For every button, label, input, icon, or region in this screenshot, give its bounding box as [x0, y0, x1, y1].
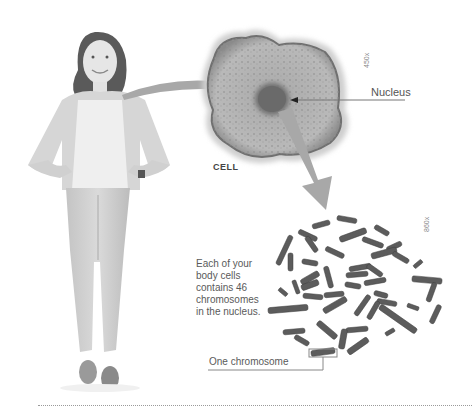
bottom-divider	[38, 405, 472, 406]
chromosome-callout-bracket	[0, 0, 472, 410]
one-chromosome-label: One chromosome	[209, 356, 288, 368]
chromosome-diagram: Nucleus CELL 450x	[0, 0, 472, 410]
